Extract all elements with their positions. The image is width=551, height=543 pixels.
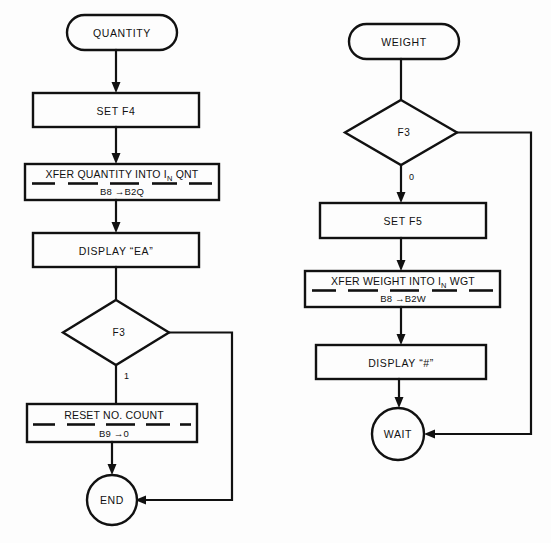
branch-label-quantity-1: 1 [124,371,129,381]
flowchart-canvas: QUANTITY SET F4 XFER QUANTITY INTO IN QN… [0,0,551,543]
node-wait: WAIT [372,408,424,460]
node-reset-no-count-line1: RESET NO. COUNT [64,409,164,421]
node-display-hash: DISPLAY “#” [316,345,486,379]
node-quantity-start: QUANTITY [67,15,177,50]
node-xfer-weight-suffix: WGT [447,275,476,287]
node-reset-no-count: RESET NO. COUNT B9 →0 [27,404,197,442]
node-weight-start: WEIGHT [349,24,459,59]
node-quantity-start-label: QUANTITY [93,27,151,39]
node-xfer-quantity-line2: B8 →B2Q [100,186,144,197]
node-xfer-quantity-suffix: QNT [173,168,199,180]
connector-display-hash-to-wait [395,379,404,408]
connector-start-to-setf4 [112,50,121,93]
connector-reset-to-end [108,442,117,475]
node-xfer-weight-prefix: XFER WEIGHT INTO I [331,275,441,287]
connector-xfer-to-display-ea [112,200,121,233]
connector-setf5-to-xfer [397,238,406,271]
node-decision-f3-weight-label: F3 [398,127,411,138]
node-end-label: END [100,494,124,506]
node-decision-f3-quantity: F3 [63,300,169,365]
node-display-hash-label: DISPLAY “#” [368,357,434,369]
node-display-ea-label: DISPLAY “EA” [79,245,154,257]
node-xfer-quantity-prefix: XFER QUANTITY INTO I [46,168,167,180]
node-xfer-weight-line2: B8 →B2W [380,293,426,304]
node-end: END [87,475,137,525]
connector-setf4-to-xfer [112,127,121,164]
connector-xfer-to-display-hash [397,307,406,345]
node-xfer-quantity: XFER QUANTITY INTO IN QNT B8 →B2Q [25,164,219,200]
node-set-f5: SET F5 [320,203,486,238]
node-wait-label: WAIT [384,428,412,440]
node-set-f4-label: SET F4 [96,105,135,117]
node-set-f4: SET F4 [33,93,199,127]
connector-decision-to-setf5 [397,165,406,203]
node-decision-f3-quantity-label: F3 [113,327,126,338]
node-xfer-weight: XFER WEIGHT INTO IN WGT B8 →B2W [305,271,500,307]
node-decision-f3-weight: F3 [345,100,457,165]
branch-label-weight-0: 0 [409,172,414,182]
node-set-f5-label: SET F5 [383,215,422,227]
node-display-ea: DISPLAY “EA” [33,233,199,267]
node-reset-no-count-line2: B9 →0 [99,428,129,439]
node-weight-start-label: WEIGHT [381,36,427,48]
